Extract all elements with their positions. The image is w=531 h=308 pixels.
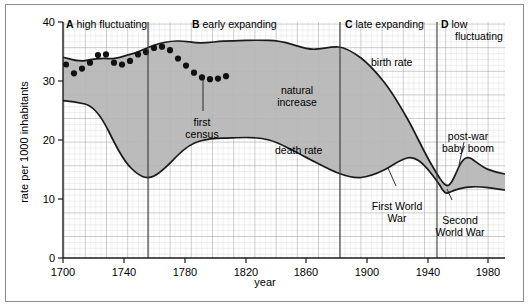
annotation-birth-rate: birth rate — [371, 56, 412, 68]
annotation-first-census-l1: first — [185, 116, 218, 128]
x-tick-1700: 1700 — [51, 266, 75, 278]
annotation-death-rate: death rate — [275, 144, 322, 156]
phase-text-d: low — [452, 18, 468, 30]
annotation-natural-increase: natural increase — [277, 84, 317, 108]
annotation-second-world-war-l1: Second — [435, 214, 484, 226]
annotation-post-war-baby-boom: post-war baby boom — [442, 130, 494, 154]
phase-text-d2: fluctuating — [441, 30, 503, 42]
phase-label-b: B early expanding — [192, 18, 277, 30]
x-axis-title: year — [254, 276, 275, 288]
y-tick-20: 20 — [43, 134, 55, 146]
phase-letter-b: B — [192, 18, 200, 30]
annotation-second-world-war-l2: World War — [435, 226, 484, 238]
phase-label-d: D low fluctuating — [441, 18, 503, 42]
phase-letter-d: D — [441, 18, 449, 30]
annotation-first-world-war: First World War — [372, 200, 423, 224]
x-tick-1740: 1740 — [112, 266, 136, 278]
phase-letter-a: A — [66, 18, 74, 30]
y-tick-labels: 40 30 20 10 0 — [43, 16, 55, 264]
annotation-first-world-war-l2: War — [372, 212, 423, 224]
annotation-post-war-baby-boom-l1: post-war — [442, 130, 494, 142]
y-tick-0: 0 — [49, 252, 55, 264]
y-axis-ticks — [58, 22, 63, 258]
phase-label-c: C late expanding — [345, 18, 424, 30]
annotation-first-world-war-l1: First World — [372, 200, 423, 212]
demographic-transition-figure: 40 30 20 10 0 1700 1740 1780 1820 1860 1… — [0, 0, 531, 308]
annotation-post-war-baby-boom-l2: baby boom — [442, 142, 494, 154]
annotation-first-census-l2: census — [185, 128, 218, 140]
x-tick-1900: 1900 — [355, 266, 379, 278]
phase-text-a: high fluctuating — [77, 18, 148, 30]
y-axis-title: rate per 1000 inhabitants — [18, 52, 30, 232]
annotation-second-world-war: Second World War — [435, 214, 484, 238]
phase-text-c: late expanding — [356, 18, 424, 30]
y-tick-30: 30 — [43, 75, 55, 87]
phase-label-a: A high fluctuating — [66, 18, 147, 30]
y-tick-10: 10 — [43, 193, 55, 205]
x-tick-1940: 1940 — [416, 266, 440, 278]
phase-text-b: early expanding — [203, 18, 277, 30]
chart-canvas: 40 30 20 10 0 1700 1740 1780 1820 1860 1… — [0, 0, 531, 308]
x-axis-ticks — [63, 258, 488, 263]
x-tick-1980: 1980 — [476, 266, 500, 278]
x-tick-1780: 1780 — [173, 266, 197, 278]
y-tick-40: 40 — [43, 16, 55, 28]
annotation-natural-increase-l1: natural — [277, 84, 317, 96]
x-tick-1860: 1860 — [294, 266, 318, 278]
annotation-first-census: first census — [185, 116, 218, 140]
annotation-natural-increase-l2: increase — [277, 96, 317, 108]
phase-letter-c: C — [345, 18, 353, 30]
